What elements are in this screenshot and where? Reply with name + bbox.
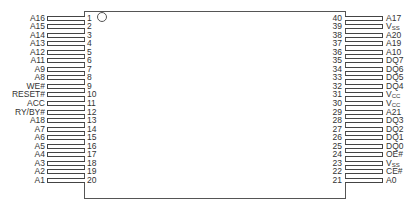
pin-lead — [47, 50, 85, 55]
pin-lead — [345, 144, 383, 149]
pin-lead — [345, 16, 383, 21]
ic-package-body — [84, 11, 346, 199]
pin-lead — [47, 178, 85, 183]
pin-lead — [47, 161, 85, 166]
pin-lead — [345, 110, 383, 115]
pin-number: 20 — [87, 176, 96, 185]
pin-lead — [345, 75, 383, 80]
pin-lead — [47, 84, 85, 89]
pin-lead — [47, 135, 85, 140]
pin-name: A1 — [35, 176, 45, 185]
pin-name: A0 — [386, 176, 396, 185]
pin-lead — [345, 101, 383, 106]
pin-lead — [47, 41, 85, 46]
pin-lead — [47, 67, 85, 72]
pin-lead — [345, 161, 383, 166]
pin-lead — [345, 127, 383, 132]
pin-name-base: A0 — [386, 175, 396, 185]
pin-lead — [47, 101, 85, 106]
pin-lead — [345, 135, 383, 140]
pin-lead — [47, 92, 85, 97]
pin-lead — [47, 144, 85, 149]
pin-lead — [47, 169, 85, 174]
pin-lead — [345, 33, 383, 38]
pin-lead — [345, 24, 383, 29]
pin-lead — [47, 152, 85, 157]
pin-lead — [345, 41, 383, 46]
pin-lead — [345, 169, 383, 174]
pin-lead — [345, 84, 383, 89]
pin-lead — [345, 58, 383, 63]
pin-lead — [345, 152, 383, 157]
pin-lead — [47, 127, 85, 132]
pin-lead — [345, 67, 383, 72]
pin1-marker-icon — [97, 12, 107, 22]
pin-lead — [345, 118, 383, 123]
pin-number: 21 — [333, 176, 342, 185]
pin-lead — [345, 92, 383, 97]
pin-lead — [345, 178, 383, 183]
pin-lead — [47, 58, 85, 63]
pin-lead — [47, 24, 85, 29]
pin-lead — [345, 50, 383, 55]
pin-lead — [47, 33, 85, 38]
pin-lead — [47, 16, 85, 21]
pin-lead — [47, 75, 85, 80]
pin-lead — [47, 110, 85, 115]
pin-lead — [47, 118, 85, 123]
